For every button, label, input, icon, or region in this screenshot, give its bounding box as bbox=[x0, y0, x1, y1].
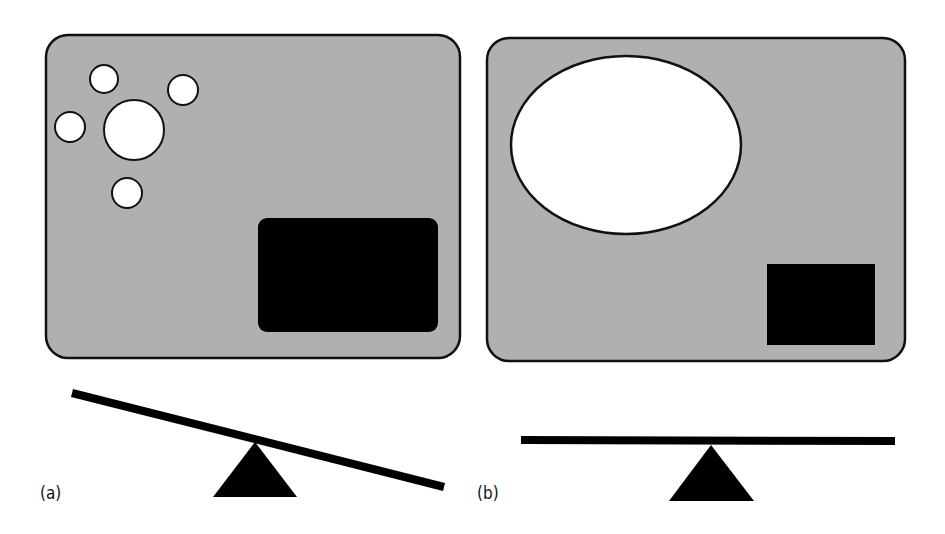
panel-a-lever bbox=[72, 393, 444, 497]
panel-b bbox=[487, 38, 905, 501]
diagram-canvas bbox=[0, 0, 945, 534]
panel-b-white-ellipse bbox=[511, 56, 741, 234]
small-circle bbox=[90, 65, 118, 93]
large-circle bbox=[104, 100, 164, 160]
small-circle bbox=[168, 75, 198, 105]
panel-a-black-rectangle bbox=[258, 218, 438, 332]
panel-b-lever bbox=[521, 440, 895, 501]
panel-a bbox=[46, 35, 460, 497]
panel-b-label: (b) bbox=[477, 483, 499, 503]
panel-b-black-square bbox=[767, 264, 875, 345]
small-circle bbox=[112, 178, 142, 208]
panel-a-label: (a) bbox=[40, 483, 61, 503]
fulcrum-triangle bbox=[669, 445, 754, 501]
lever-beam-level bbox=[521, 440, 895, 441]
small-circle bbox=[55, 112, 85, 142]
